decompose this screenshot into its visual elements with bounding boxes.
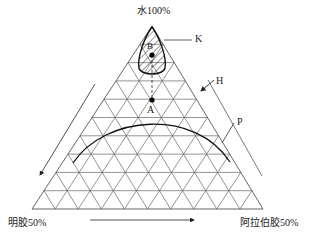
label-water-100: 水100% [137, 2, 170, 17]
ternary-phase-diagram [0, 0, 310, 238]
label-gum-arabic-50: 阿拉伯胶50% [240, 214, 298, 229]
label-k: K [195, 33, 202, 44]
label-p: P [237, 116, 243, 127]
leader-p [222, 123, 234, 143]
label-a: A [147, 104, 154, 115]
point-b [149, 52, 154, 57]
point-a [149, 97, 154, 102]
parallel-line-right [208, 80, 262, 176]
label-b: B [147, 41, 153, 51]
label-gelatin-50: 明胶50% [8, 214, 46, 229]
label-h: H [216, 75, 223, 86]
curve-p [73, 124, 230, 163]
leader-h [201, 80, 214, 91]
